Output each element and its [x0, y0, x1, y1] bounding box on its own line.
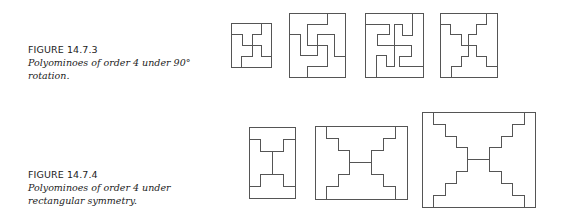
rotation-diagram-2	[290, 14, 346, 78]
rotation-diagram-4	[441, 14, 498, 78]
rotation-diagram-1	[232, 24, 272, 68]
polyomino-diagrams	[0, 0, 562, 221]
rectangular-diagram-1	[250, 128, 296, 199]
rectangular-diagram-2	[316, 127, 408, 200]
rectangular-diagram-3	[423, 113, 536, 208]
rotation-diagram-3	[366, 14, 424, 78]
